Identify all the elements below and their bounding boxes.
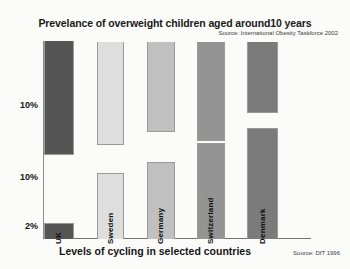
category-label-sweden: Sweden	[106, 213, 115, 244]
bar-top-uk	[44, 41, 74, 155]
y-tick-label-0: 10%	[0, 100, 38, 110]
plot-area: UKSwedenGermanySwitzerlandDenmark	[44, 41, 310, 239]
bar-top-germany	[147, 42, 175, 132]
x-axis-label: Levels of cycling in selected countries	[30, 245, 280, 257]
category-label-denmark: Denmark	[258, 208, 267, 244]
y-tick-label-2: 2%	[0, 221, 38, 231]
category-label-uk: UK	[54, 232, 63, 244]
bar-top-denmark	[247, 42, 278, 113]
chart-source-top: Source: International Obesity Taskforce …	[218, 30, 338, 36]
chart-title: Prevelance of overweight children aged a…	[0, 17, 350, 29]
category-label-germany: Germany	[156, 208, 165, 244]
bar-top-sweden	[97, 42, 124, 145]
y-tick-label-1: 10%	[0, 172, 38, 182]
chart-source-bottom: Source: DfT 1996	[293, 250, 340, 256]
chart-figure: Prevelance of overweight children aged a…	[0, 0, 350, 269]
category-label-switzerland: Switzerland	[206, 197, 215, 244]
bar-top-switzerland	[197, 42, 225, 141]
